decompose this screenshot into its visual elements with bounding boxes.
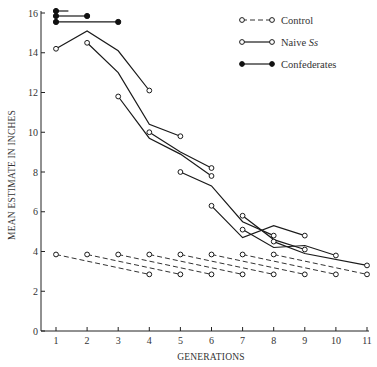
legend-label: Naive Ss — [281, 37, 318, 48]
open-circle-marker — [178, 252, 183, 257]
naive-ss-line — [243, 230, 336, 256]
open-circle-marker — [85, 40, 90, 45]
naive-ss-line — [274, 242, 367, 266]
y-tick-label: 16 — [28, 8, 38, 19]
y-tick-label: 10 — [28, 127, 38, 138]
open-circle-marker — [240, 272, 245, 277]
open-circle-marker — [85, 252, 90, 257]
x-tick-label: 1 — [54, 335, 59, 346]
open-circle-marker — [271, 272, 276, 277]
control-line — [274, 255, 367, 275]
y-tick-label: 0 — [33, 326, 38, 337]
open-circle-marker — [365, 272, 370, 277]
y-tick-label: 12 — [28, 87, 38, 98]
y-tick-label: 4 — [33, 246, 38, 257]
open-circle-marker — [209, 203, 214, 208]
open-circle-marker — [54, 46, 59, 51]
x-tick-label: 5 — [178, 335, 183, 346]
open-circle-marker — [302, 247, 307, 252]
open-circle-marker — [240, 40, 245, 45]
open-circle-marker — [147, 88, 152, 93]
open-circle-marker — [178, 170, 183, 175]
y-tick-label: 14 — [28, 47, 38, 58]
y-tick-label: 6 — [33, 206, 38, 217]
x-tick-label: 10 — [331, 335, 341, 346]
y-axis-title: MEAN ESTIMATE IN INCHES — [7, 110, 17, 240]
x-tick-label: 4 — [147, 335, 152, 346]
x-axis-title: GENERATIONS — [177, 352, 245, 362]
filled-circle-marker — [270, 62, 275, 67]
x-tick-label: 7 — [240, 335, 245, 346]
open-circle-marker — [240, 18, 245, 23]
open-circle-marker — [240, 213, 245, 218]
legend: ControlNaive SsConfederates — [240, 15, 337, 70]
open-circle-marker — [302, 272, 307, 277]
legend-item-confederates: Confederates — [240, 59, 337, 70]
open-circle-marker — [209, 252, 214, 257]
legend-item-control: Control — [240, 15, 314, 26]
open-circle-marker — [147, 130, 152, 135]
x-tick-label: 6 — [209, 335, 214, 346]
series-layer — [53, 8, 369, 276]
naive-ss-line — [87, 43, 180, 136]
open-circle-marker — [240, 227, 245, 232]
open-circle-marker — [54, 252, 59, 257]
filled-circle-marker — [53, 13, 58, 18]
filled-circle-marker — [53, 8, 58, 13]
y-tick-label: 8 — [33, 167, 38, 178]
open-circle-marker — [334, 253, 339, 258]
naive-ss-line — [56, 31, 149, 91]
open-circle-marker — [116, 252, 121, 257]
open-circle-marker — [334, 272, 339, 277]
x-tick-label: 3 — [116, 335, 121, 346]
open-circle-marker — [209, 174, 214, 179]
x-tick-label: 11 — [362, 335, 372, 346]
legend-label: Confederates — [281, 59, 336, 70]
open-circle-marker — [178, 134, 183, 139]
open-circle-marker — [147, 252, 152, 257]
x-tick-label: 2 — [85, 335, 90, 346]
x-tick-label: 9 — [302, 335, 307, 346]
naive-ss-line — [180, 172, 273, 236]
open-circle-marker — [271, 252, 276, 257]
open-circle-marker — [270, 40, 275, 45]
open-circle-marker — [270, 18, 275, 23]
filled-circle-marker — [240, 62, 245, 67]
filled-circle-marker — [85, 13, 90, 18]
open-circle-marker — [271, 239, 276, 244]
chart: 02468101214161234567891011 ControlNaive … — [0, 0, 377, 367]
naive-ss-line — [212, 206, 305, 238]
legend-item-naive-ss: Naive Ss — [240, 37, 318, 48]
y-tick-label: 2 — [33, 286, 38, 297]
open-circle-marker — [178, 272, 183, 277]
open-circle-marker — [365, 263, 370, 268]
legend-label: Control — [281, 15, 313, 26]
open-circle-marker — [302, 233, 307, 238]
open-circle-marker — [147, 272, 152, 277]
x-tick-label: 8 — [271, 335, 276, 346]
naive-ss-line — [118, 97, 211, 177]
open-circle-marker — [209, 166, 214, 171]
filled-circle-marker — [53, 19, 58, 24]
open-circle-marker — [271, 233, 276, 238]
open-circle-marker — [116, 94, 121, 99]
open-circle-marker — [209, 272, 214, 277]
open-circle-marker — [240, 252, 245, 257]
filled-circle-marker — [116, 19, 121, 24]
